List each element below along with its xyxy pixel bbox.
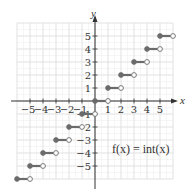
x-tick-label: 4 — [144, 104, 150, 115]
y-tick-label: 4 — [85, 44, 91, 55]
y-tick-label: −4 — [76, 148, 91, 159]
y-tick-label: −5 — [76, 161, 91, 172]
y-tick-label: −3 — [76, 135, 91, 146]
y-tick-label: 2 — [85, 70, 91, 81]
open-dot-icon — [171, 34, 176, 39]
closed-dot-icon — [106, 86, 111, 91]
open-dot-icon — [80, 125, 85, 130]
open-dot-icon — [41, 164, 46, 169]
closed-dot-icon — [158, 34, 163, 39]
open-dot-icon — [145, 60, 150, 65]
open-dot-icon — [67, 138, 72, 143]
open-dot-icon — [106, 99, 111, 104]
x-tick-label: 2 — [118, 104, 124, 115]
closed-dot-icon — [119, 73, 124, 78]
open-dot-icon — [93, 112, 98, 117]
open-dot-icon — [158, 47, 163, 52]
x-axis-arrow-icon — [171, 99, 178, 104]
y-tick-label: 3 — [85, 57, 91, 68]
step-function-chart: −5−4−3−2−112345−5−4−3−2−112345 x y f(x) … — [0, 0, 190, 192]
open-dot-icon — [132, 73, 137, 78]
closed-dot-icon — [28, 164, 33, 169]
y-axis-label: y — [90, 7, 96, 19]
closed-dot-icon — [15, 177, 20, 182]
closed-dot-icon — [80, 112, 85, 117]
y-tick-label: 5 — [85, 31, 91, 42]
open-dot-icon — [119, 86, 124, 91]
closed-dot-icon — [93, 99, 98, 104]
open-dot-icon — [28, 177, 33, 182]
closed-dot-icon — [41, 151, 46, 156]
function-label: f(x) = int(x) — [112, 142, 169, 156]
x-tick-label: 1 — [105, 104, 111, 115]
open-dot-icon — [54, 151, 59, 156]
x-axis-label: x — [179, 94, 185, 106]
closed-dot-icon — [145, 47, 150, 52]
closed-dot-icon — [54, 138, 59, 143]
closed-dot-icon — [132, 60, 137, 65]
x-tick-label: 3 — [131, 104, 137, 115]
x-tick-label: 5 — [157, 104, 163, 115]
y-tick-label: 1 — [85, 83, 91, 94]
closed-dot-icon — [67, 125, 72, 130]
